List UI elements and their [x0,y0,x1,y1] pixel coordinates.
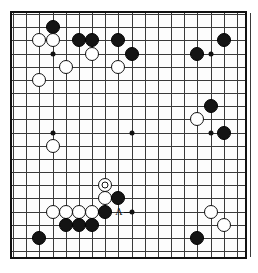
grid-line-vertical-14 [184,13,185,257]
black-stone[interactable] [59,218,73,232]
black-stone[interactable] [111,191,125,205]
white-stone[interactable] [32,73,46,87]
white-stone[interactable] [85,205,99,219]
black-stone[interactable] [111,33,125,47]
star-point [129,130,134,135]
marked-white-stone[interactable] [98,178,112,192]
point-label-text: A [115,206,122,217]
white-stone[interactable] [85,47,99,61]
white-stone[interactable] [217,218,231,232]
grid-line-vertical-8 [105,13,106,257]
grid-line-vertical-12 [158,13,159,257]
black-stone[interactable] [85,218,99,232]
black-stone[interactable] [85,33,99,47]
grid-line-vertical-1 [13,13,14,257]
black-stone[interactable] [217,33,231,47]
white-stone[interactable] [204,205,218,219]
grid-line-vertical-2 [26,13,27,257]
white-stone[interactable] [46,139,60,153]
black-stone[interactable] [32,231,46,245]
white-stone[interactable] [59,60,73,74]
star-point [208,130,213,135]
white-stone[interactable] [46,33,60,47]
grid-line-vertical-13 [171,13,172,257]
grid-line-vertical-11 [145,13,146,257]
black-stone[interactable] [217,126,231,140]
black-stone[interactable] [72,218,86,232]
grid-line-vertical-9 [118,13,119,257]
black-stone[interactable] [190,231,204,245]
grid-line-vertical-19 [250,13,251,257]
black-stone[interactable] [204,99,218,113]
black-stone[interactable] [190,47,204,61]
white-stone[interactable] [72,205,86,219]
grid-line-vertical-18 [237,13,238,257]
black-stone[interactable] [125,47,139,61]
star-point [50,51,55,56]
star-point [50,130,55,135]
go-board-diagram: A [0,0,258,273]
board-frame: A [10,11,247,259]
star-point [208,51,213,56]
black-stone[interactable] [46,20,60,34]
star-point [129,209,134,214]
white-stone[interactable] [59,205,73,219]
white-stone[interactable] [98,191,112,205]
point-label-a: A [115,207,129,217]
white-stone[interactable] [190,112,204,126]
label-tick-icon [123,212,129,213]
black-stone[interactable] [98,205,112,219]
white-stone[interactable] [111,60,125,74]
grid-line-vertical-3 [39,13,40,257]
black-stone[interactable] [72,33,86,47]
white-stone[interactable] [32,33,46,47]
white-stone[interactable] [46,205,60,219]
